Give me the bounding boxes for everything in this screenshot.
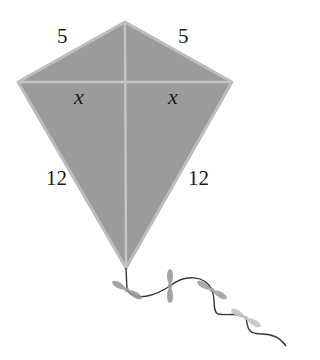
tail-bow-icon [196,279,228,301]
kite-tail-string [126,268,286,346]
label-bottom-left-side: 12 [46,168,67,189]
label-top-right-side: 5 [178,26,189,47]
label-top-left-side: 5 [57,26,68,47]
label-left-cross-segment: x [74,86,84,108]
label-bottom-right-side: 12 [188,168,209,189]
tail-bow-icon [230,307,262,329]
label-right-cross-segment: x [168,86,178,108]
kite-vertical-spar [125,23,126,266]
tail-bow-icon [167,269,173,303]
